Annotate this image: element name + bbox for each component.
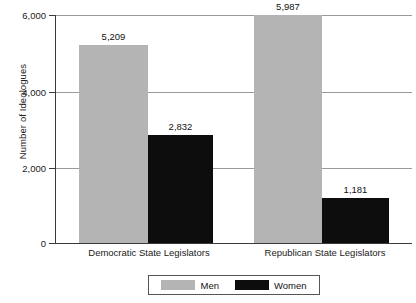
y-tick-label-4000: 4,000 bbox=[0, 87, 46, 98]
bar-value-republican-women: 1,181 bbox=[322, 184, 389, 195]
bar-chart: Number of Ideologues 6,000 4,000 2,000 0… bbox=[0, 0, 416, 303]
category-label-republican: Republican State Legislators bbox=[240, 247, 410, 258]
bar-democratic-women[interactable] bbox=[148, 135, 213, 243]
axis-baseline bbox=[56, 243, 412, 244]
legend-swatch-women-icon bbox=[235, 280, 269, 290]
legend-label-women: Women bbox=[274, 280, 307, 291]
plot-area: 5,209 2,832 5,987 1,181 bbox=[56, 15, 412, 243]
bar-republican-men[interactable] bbox=[254, 15, 322, 243]
category-label-democratic: Democratic State Legislators bbox=[64, 247, 234, 258]
chart-legend: Men Women bbox=[148, 275, 320, 295]
legend-item-women[interactable]: Women bbox=[235, 280, 307, 291]
legend-label-men: Men bbox=[200, 280, 218, 291]
bar-value-democratic-women: 2,832 bbox=[148, 121, 213, 132]
y-tick-label-2000: 2,000 bbox=[0, 163, 46, 174]
bar-value-democratic-men: 5,209 bbox=[79, 31, 148, 42]
y-tick-label-0: 0 bbox=[0, 238, 46, 249]
y-tick-label-6000: 6,000 bbox=[0, 10, 46, 21]
legend-item-men[interactable]: Men bbox=[161, 280, 218, 291]
bar-republican-women[interactable] bbox=[322, 198, 389, 243]
gridline-6000 bbox=[56, 15, 412, 16]
legend-swatch-men-icon bbox=[161, 280, 195, 290]
bar-value-republican-men: 5,987 bbox=[254, 1, 322, 12]
bar-democratic-men[interactable] bbox=[79, 45, 148, 243]
